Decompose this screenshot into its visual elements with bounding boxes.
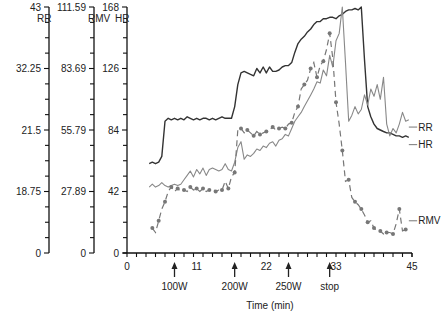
data-series: RRHRRMV — [149, 7, 441, 236]
axis-title: HR — [115, 13, 129, 24]
svg-text:250W: 250W — [275, 281, 302, 292]
x-tick-label: 33 — [330, 261, 342, 272]
series-rmv — [150, 31, 407, 236]
series-label-rmv: RMV — [418, 215, 441, 226]
rr-axis: RR4332.2521.518.750 — [16, 2, 51, 259]
hr-axis: HR16812684420 — [102, 2, 129, 259]
tick-label: 0 — [35, 248, 41, 259]
tick-label: 111.59 — [57, 2, 87, 13]
x-axis: 011223345 — [123, 253, 418, 272]
rmv-axis: RMV111.5983.6955.7927.890 — [57, 2, 111, 259]
svg-text:200W: 200W — [222, 281, 249, 292]
x-tick-label: 22 — [261, 261, 273, 272]
axis-title: RR — [37, 13, 51, 24]
annotations: 100W200W250Wstop — [161, 262, 339, 292]
annotation-100w: 100W — [161, 262, 188, 292]
tick-label: 43 — [30, 2, 42, 13]
x-tick-label: 11 — [191, 261, 202, 272]
tick-label: 83.69 — [61, 63, 86, 74]
tick-label: 168 — [102, 2, 119, 13]
x-axis-label: Time (min) — [246, 300, 293, 311]
tick-label: 21.5 — [22, 125, 42, 136]
tick-label: 42 — [108, 186, 120, 197]
annotation-200w: 200W — [222, 262, 249, 292]
svg-text:stop: stop — [320, 281, 339, 292]
annotation-250w: 250W — [275, 262, 302, 292]
series-label-hr: HR — [418, 139, 432, 150]
x-tick-label: 45 — [406, 261, 418, 272]
tick-label: 0 — [80, 248, 86, 259]
series-label-rr: RR — [418, 122, 432, 133]
tick-label: 0 — [113, 248, 119, 259]
tick-label: 84 — [108, 125, 120, 136]
series-rr — [149, 7, 409, 187]
tick-label: 18.75 — [16, 186, 41, 197]
svg-text:100W: 100W — [161, 281, 188, 292]
tick-label: 32.25 — [16, 63, 41, 74]
x-tick-label: 0 — [124, 261, 130, 272]
y-axes: RR4332.2521.518.750RMV111.5983.6955.7927… — [16, 2, 129, 259]
tick-label: 55.79 — [61, 125, 86, 136]
multi-axis-line-chart: RR4332.2521.518.750RMV111.5983.6955.7927… — [0, 0, 445, 322]
tick-label: 126 — [102, 63, 119, 74]
tick-label: 27.89 — [61, 186, 86, 197]
